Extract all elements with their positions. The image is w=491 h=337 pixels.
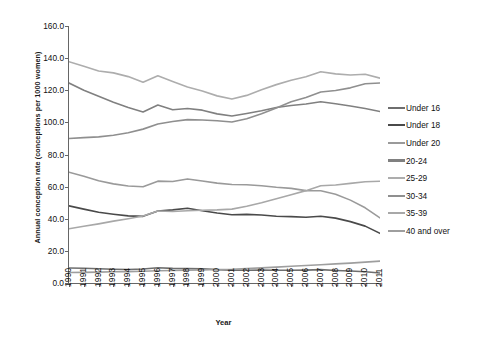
- legend-item[interactable]: 40 and over: [388, 222, 488, 240]
- y-tick-label: 20.0: [24, 246, 64, 256]
- legend-swatch: [388, 212, 405, 214]
- y-tick-mark: [65, 155, 69, 156]
- legend-item[interactable]: Under 18: [388, 117, 488, 135]
- x-tick-label: 1993: [107, 268, 117, 287]
- x-tick-label: 1998: [181, 268, 191, 287]
- x-tick-label: 2009: [344, 268, 354, 287]
- y-tick-label: 0.0: [24, 278, 64, 288]
- legend-swatch: [388, 230, 405, 232]
- x-tick-label: 1991: [78, 268, 88, 287]
- legend-swatch: [388, 107, 405, 109]
- x-tick-label: 1995: [137, 268, 147, 287]
- y-tick-label: 100.0: [24, 117, 64, 127]
- x-tick-label: 1994: [122, 268, 132, 287]
- x-tick-label: 1997: [167, 268, 177, 287]
- legend-item[interactable]: 20-24: [388, 152, 488, 170]
- x-tick-label: 2011: [374, 268, 384, 287]
- x-tick-label: 2010: [359, 268, 369, 287]
- series-lines: [69, 26, 380, 283]
- y-tick-label: 140.0: [24, 53, 64, 63]
- legend-swatch: [388, 177, 405, 179]
- y-tick-label: 40.0: [24, 214, 64, 224]
- series-line: [69, 83, 380, 138]
- x-axis-title: Year: [68, 318, 379, 327]
- series-line: [69, 181, 380, 228]
- legend-item[interactable]: Under 16: [388, 99, 488, 117]
- legend-swatch: [388, 142, 405, 144]
- x-tick-label: 1990: [63, 268, 73, 287]
- legend-label: Under 18: [406, 120, 440, 130]
- x-tick-label: 1996: [152, 268, 162, 287]
- series-line: [69, 62, 380, 99]
- legend-label: 30-34: [406, 191, 427, 201]
- legend-item[interactable]: Under 20: [388, 134, 488, 152]
- legend-swatch: [388, 159, 405, 161]
- y-tick-mark: [65, 58, 69, 59]
- legend-item[interactable]: 25-29: [388, 169, 488, 187]
- conception-rate-line-chart: Annual conception rate (conceptions per …: [0, 0, 491, 337]
- x-tick-label: 2005: [285, 268, 295, 287]
- y-tick-label: 80.0: [24, 150, 64, 160]
- legend-label: Under 16: [406, 103, 440, 113]
- plot-area: [68, 26, 380, 284]
- legend-label: Under 20: [406, 138, 440, 148]
- x-tick-label: 1999: [196, 268, 206, 287]
- x-tick-label: 2002: [241, 268, 251, 287]
- x-tick-label: 2006: [300, 268, 310, 287]
- y-tick-mark: [65, 251, 69, 252]
- chart-legend: Under 16Under 18Under 2020-2425-2930-343…: [388, 99, 488, 240]
- legend-item[interactable]: 30-34: [388, 187, 488, 205]
- series-line: [69, 83, 380, 116]
- x-tick-label: 2003: [256, 268, 266, 287]
- x-tick-label: 2000: [211, 268, 221, 287]
- legend-label: 25-29: [406, 173, 427, 183]
- y-tick-label: 120.0: [24, 85, 64, 95]
- legend-swatch: [388, 195, 405, 197]
- legend-swatch: [388, 124, 405, 126]
- y-tick-mark: [65, 122, 69, 123]
- y-tick-mark: [65, 90, 69, 91]
- legend-item[interactable]: 35-39: [388, 205, 488, 223]
- y-tick-label: 60.0: [24, 182, 64, 192]
- x-tick-label: 2001: [226, 268, 236, 287]
- x-tick-label: 1992: [93, 268, 103, 287]
- y-axis-tick-labels: 0.020.040.060.080.0100.0120.0140.0160.0: [22, 0, 64, 337]
- legend-label: 40 and over: [406, 226, 450, 236]
- y-tick-label: 160.0: [24, 21, 64, 31]
- y-tick-mark: [65, 219, 69, 220]
- legend-label: 20-24: [406, 156, 427, 166]
- y-tick-mark: [65, 187, 69, 188]
- x-tick-label: 2004: [270, 268, 280, 287]
- y-tick-mark: [65, 26, 69, 27]
- x-tick-label: 2007: [315, 268, 325, 287]
- series-line: [69, 172, 380, 218]
- x-tick-label: 2008: [330, 268, 340, 287]
- legend-label: 35-39: [406, 208, 427, 218]
